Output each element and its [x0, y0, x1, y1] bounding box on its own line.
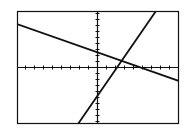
graph-screen	[0, 0, 188, 134]
graph-plot	[0, 0, 188, 134]
